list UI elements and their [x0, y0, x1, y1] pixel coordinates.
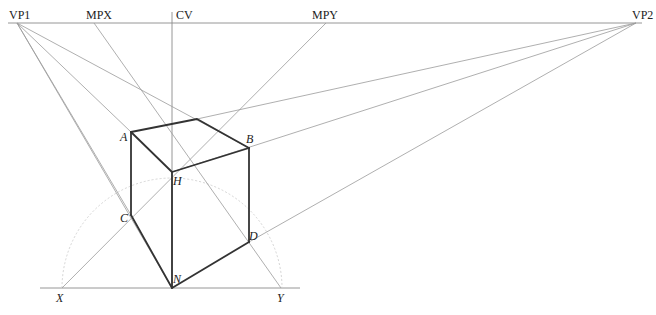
vp1-label: VP1 — [9, 8, 30, 22]
point-d-label: D — [248, 229, 258, 243]
vp1-construction-lines — [17, 23, 249, 288]
mpy-label: MPY — [312, 8, 338, 22]
point-n-label: N — [172, 272, 182, 286]
point-x-label: X — [55, 291, 64, 305]
cube-edges — [131, 119, 249, 288]
measuring-point-lines — [62, 23, 326, 288]
point-y-label: Y — [277, 291, 285, 305]
cv-label: CV — [176, 8, 193, 22]
point-b-label: B — [246, 132, 254, 146]
point-c-label: C — [120, 211, 129, 225]
perspective-diagram: VP1 MPX CV MPY VP2 A B H C D N X Y — [0, 0, 656, 315]
mpx-label: MPX — [86, 8, 112, 22]
point-a-label: A — [119, 130, 128, 144]
vp2-label: VP2 — [632, 8, 653, 22]
point-h-label: H — [172, 174, 183, 188]
vp2-construction-lines — [172, 23, 636, 242]
